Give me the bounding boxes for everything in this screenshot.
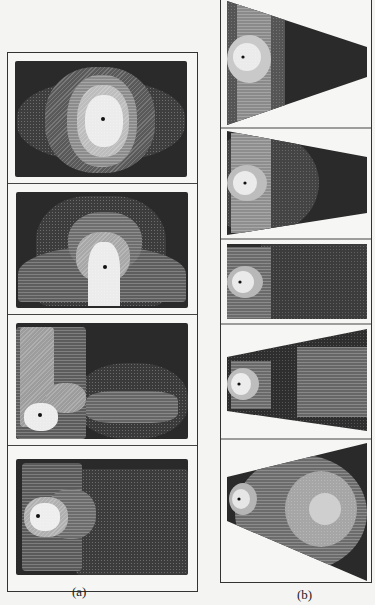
source-marker: [101, 117, 105, 121]
panel-a-subplot-3: [8, 315, 197, 446]
panel-b-heatmaps: [221, 0, 371, 582]
heatmap-b3: [221, 243, 371, 323]
heatmap-b4: [221, 327, 371, 437]
panel-a-subplot-4: [8, 446, 197, 591]
panel-b-frame: [220, 0, 372, 583]
source-marker: [36, 514, 40, 518]
panel-b-caption: (b): [297, 587, 312, 603]
heatmap-b2: [221, 129, 371, 239]
heatmap-a2: [16, 192, 188, 308]
source-marker: [38, 413, 42, 417]
panel-a-frame: [7, 52, 198, 592]
panel-a-subplot-1: [8, 53, 197, 184]
heatmap-a4: [16, 459, 188, 575]
source-marker: [103, 265, 107, 269]
heatmap-a3: [16, 323, 188, 439]
heatmap-b1: [221, 0, 371, 129]
panel-a-caption: (a): [72, 584, 86, 600]
heatmap-b5: [221, 443, 371, 582]
heatmap-a1: [15, 61, 187, 177]
panel-a-subplot-2: [8, 184, 197, 315]
